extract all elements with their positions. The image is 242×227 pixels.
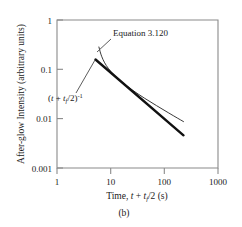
- y-tick-label-0.1: 0.1: [41, 65, 52, 75]
- figure-container: 1 0.1 0.01 0.001 1 10 100 1000 Time, t +…: [0, 0, 242, 227]
- figure-caption: (b): [118, 208, 129, 219]
- x-axis-title-plus: +: [133, 191, 143, 201]
- x-tick-label-1000: 1000: [209, 177, 228, 187]
- y-tick-label-1: 1: [48, 16, 53, 26]
- x-axis-title-prefix: Time,: [106, 191, 130, 201]
- y-tick-label-0.01: 0.01: [36, 114, 52, 124]
- equation-annotation-label: Equation 3.120: [113, 28, 168, 38]
- afterglow-decay-chart: 1 0.1 0.01 0.001 1 10 100 1000 Time, t +…: [0, 0, 242, 227]
- powerlaw-superscript: -1: [77, 92, 82, 99]
- powerlaw-plus: +: [54, 93, 64, 103]
- x-axis-title: Time, t + tf/2 (s): [106, 191, 167, 202]
- powerlaw-tail: /2): [67, 93, 77, 103]
- x-tick-label-10: 10: [106, 177, 116, 187]
- x-tick-label-100: 100: [158, 177, 172, 187]
- y-tick-label-0.001: 0.001: [32, 164, 52, 174]
- x-axis-title-tail: /2 (s): [148, 191, 168, 202]
- x-tick-label-1: 1: [55, 177, 60, 187]
- y-axis-title: After-glow Intensity (arbitrary units): [16, 24, 27, 164]
